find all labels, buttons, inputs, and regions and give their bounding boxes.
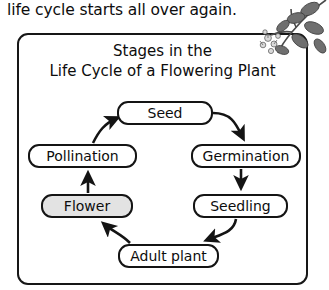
stage-box-flower[interactable]: Flower: [41, 194, 133, 218]
stage-box-germination[interactable]: Germination: [191, 144, 301, 168]
stage-label-adult-plant: Adult plant: [130, 249, 207, 263]
stage-label-flower: Flower: [64, 199, 110, 213]
stage-box-pollination[interactable]: Pollination: [28, 144, 137, 168]
stage-label-pollination: Pollination: [46, 149, 118, 163]
flowering-branch-illustration: [252, 0, 329, 70]
stage-label-seed: Seed: [148, 106, 183, 120]
stage-box-seed[interactable]: Seed: [117, 101, 213, 125]
stage-label-germination: Germination: [203, 149, 290, 163]
stage-box-seedling[interactable]: Seedling: [193, 194, 288, 218]
stage-label-seedling: Seedling: [210, 199, 271, 213]
intro-text: life cycle starts all over again.: [7, 1, 237, 19]
stage-box-adult-plant[interactable]: Adult plant: [118, 244, 219, 268]
